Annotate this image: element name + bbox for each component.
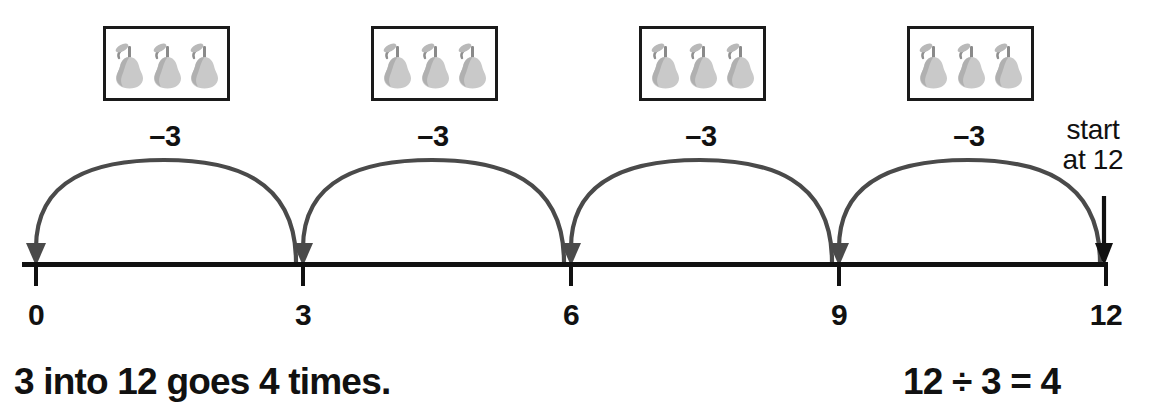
pear-group-box [371, 26, 498, 101]
pear-icon [722, 38, 758, 90]
axis-tick-label: 6 [541, 300, 601, 330]
jump-label: –3 [135, 122, 195, 151]
pear-group-box [103, 26, 230, 101]
caption-right: 12 ÷ 3 = 4 [903, 363, 1060, 400]
pear-icon [990, 38, 1026, 90]
jump-label: –3 [939, 122, 999, 151]
axis-tick-label: 12 [1076, 300, 1136, 330]
division-number-line-diagram: –3 –3 –3 –3 start at 12 0 3 6 9 12 3 int… [0, 0, 1152, 416]
pear-icon [186, 38, 222, 90]
start-annotation-line2: at 12 [1034, 145, 1152, 175]
pear-icon [647, 38, 683, 90]
pear-icon [379, 38, 415, 90]
pear-icon [111, 38, 147, 90]
jump-label: –3 [671, 122, 731, 151]
pear-icon [685, 38, 721, 90]
start-annotation-line1: start [1034, 115, 1152, 145]
pear-icon [149, 38, 185, 90]
axis-tick-label: 9 [809, 300, 869, 330]
pear-icon [915, 38, 951, 90]
caption-left: 3 into 12 goes 4 times. [14, 363, 390, 400]
axis-tick [837, 262, 841, 286]
number-line-axis [22, 262, 1106, 267]
start-annotation: start at 12 [1034, 115, 1152, 175]
pear-icon [417, 38, 453, 90]
pear-icon [953, 38, 989, 90]
jump-label: –3 [403, 122, 463, 151]
jump-arc [303, 160, 564, 262]
jump-arc [36, 160, 296, 262]
axis-tick [34, 262, 38, 286]
pear-icon [454, 38, 490, 90]
axis-tick-label: 0 [6, 300, 66, 330]
axis-tick [1104, 262, 1108, 286]
axis-tick [569, 262, 573, 286]
axis-tick-label: 3 [273, 300, 333, 330]
jump-arc [571, 160, 832, 262]
pear-group-box [907, 26, 1034, 101]
axis-tick [301, 262, 305, 286]
pear-group-box [639, 26, 766, 101]
